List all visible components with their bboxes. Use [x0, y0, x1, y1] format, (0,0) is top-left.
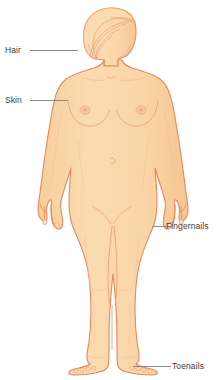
- anatomy-figure: Hair Skin Fingernails Toenails: [0, 0, 222, 380]
- toenail-left-2: [80, 368, 84, 371]
- leader-line-toenails: [133, 366, 171, 367]
- toenail-left-3: [86, 367, 90, 370]
- nipple-right: [139, 109, 142, 112]
- leader-line-hair: [30, 50, 78, 51]
- label-hair: Hair: [5, 45, 21, 55]
- toenail-left-1: [74, 369, 78, 372]
- toenail-left-4: [92, 366, 96, 369]
- torso-and-limbs-shape: [38, 60, 188, 375]
- toenail-right-3: [136, 367, 140, 370]
- label-toenails: Toenails: [172, 361, 204, 371]
- label-skin: Skin: [5, 95, 22, 105]
- fingernail-left-2: [55, 223, 59, 228]
- body-illustration: [0, 0, 222, 380]
- leader-line-fingernails: [152, 226, 166, 227]
- toenail-right-1: [148, 369, 152, 372]
- nipple-left: [83, 109, 86, 112]
- toenail-right-2: [142, 368, 146, 371]
- body-outline-group: [38, 8, 188, 375]
- fingernail-left-1: [43, 220, 47, 225]
- leader-line-skin: [30, 100, 68, 101]
- label-fingernails: Fingernails: [166, 221, 209, 231]
